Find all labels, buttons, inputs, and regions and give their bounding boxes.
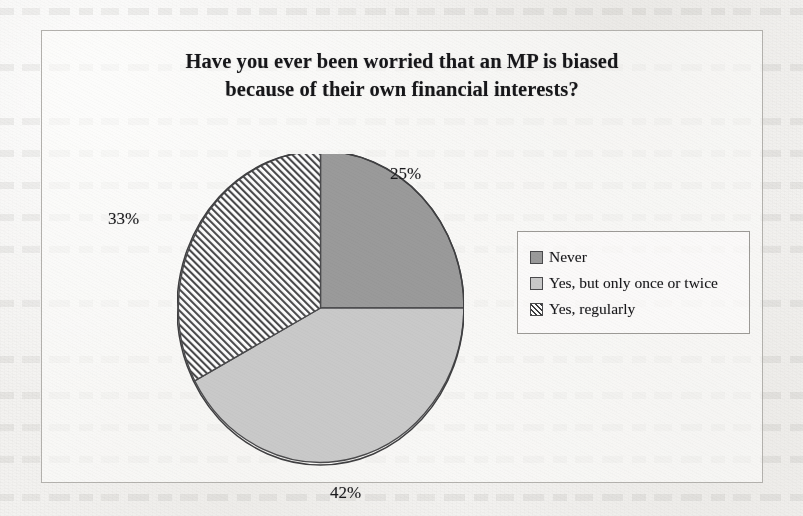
legend-swatch-once-or-twice-icon: [530, 277, 543, 290]
legend-item-regularly: Yes, regularly: [530, 296, 739, 322]
chart-title-line-2: because of their own financial interests…: [42, 75, 762, 103]
pie-chart-svg: [177, 154, 464, 469]
legend-swatch-regularly-icon: [530, 303, 543, 316]
legend-swatch-never-icon: [530, 251, 543, 264]
pie-label-once-or-twice: 42%: [330, 483, 361, 503]
legend-label-once-or-twice: Yes, but only once or twice: [549, 275, 718, 291]
bleed-through-line: [0, 494, 803, 501]
pie-label-regularly: 33%: [108, 209, 139, 229]
legend-item-never: Never: [530, 244, 739, 270]
chart-frame: Have you ever been worried that an MP is…: [41, 30, 763, 483]
chart-title: Have you ever been worried that an MP is…: [42, 47, 762, 103]
pie-label-never: 25%: [390, 164, 421, 184]
pie-chart: [177, 154, 464, 469]
legend-label-regularly: Yes, regularly: [549, 301, 635, 317]
bleed-through-line: [0, 8, 803, 15]
legend-item-once-or-twice: Yes, but only once or twice: [530, 270, 739, 296]
chart-legend: Never Yes, but only once or twice Yes, r…: [517, 231, 750, 334]
legend-label-never: Never: [549, 249, 587, 265]
chart-title-line-1: Have you ever been worried that an MP is…: [185, 50, 618, 72]
